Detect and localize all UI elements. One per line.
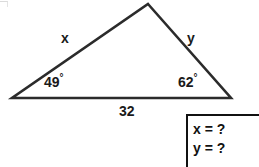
degree-symbol-icon: ° — [194, 72, 198, 83]
angle-label-left: 49° — [44, 73, 64, 89]
side-label-x: x — [61, 31, 69, 45]
angle-right-value: 62 — [178, 74, 194, 90]
side-label-y: y — [187, 31, 195, 45]
side-label-base: 32 — [119, 104, 135, 118]
angle-left-value: 49 — [44, 74, 60, 90]
answer-box: x = ? y = ? — [186, 114, 259, 167]
answer-line-x: x = ? — [193, 122, 225, 136]
degree-symbol-icon: ° — [60, 72, 64, 83]
triangle-figure: x y 49° 62° 32 x = ? y = ? — [0, 0, 259, 167]
angle-label-right: 62° — [178, 73, 198, 89]
answer-line-y: y = ? — [193, 141, 225, 155]
